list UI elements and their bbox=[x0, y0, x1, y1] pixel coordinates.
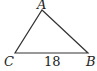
vertex-label-b: B bbox=[85, 54, 96, 69]
triangle-diagram: A B C 18 bbox=[0, 0, 97, 71]
vertex-label-a: A bbox=[36, 0, 46, 12]
triangle-abc bbox=[15, 10, 88, 53]
side-label-cb: 18 bbox=[44, 54, 61, 69]
vertex-label-c: C bbox=[4, 54, 14, 69]
